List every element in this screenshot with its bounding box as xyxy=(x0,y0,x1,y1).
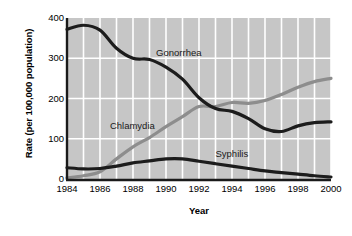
y-tick-label: 200 xyxy=(38,94,64,104)
x-tick-label: 2000 xyxy=(314,183,348,194)
x-tick-label: 1988 xyxy=(116,183,150,194)
x-tick-label: 1990 xyxy=(149,183,183,194)
series-label-gonorrhea: Gonorrhea xyxy=(156,47,201,58)
x-tick-label: 1984 xyxy=(50,183,84,194)
x-axis-title: Year xyxy=(66,205,332,216)
y-axis-title: Rate (per 100,000 population) xyxy=(23,9,34,179)
y-tick-label: 300 xyxy=(38,53,64,63)
series-label-syphilis: Syphilis xyxy=(216,148,249,159)
x-tick-label: 1994 xyxy=(215,183,249,194)
chart-container: Rate (per 100,000 population) 0100200300… xyxy=(0,0,352,236)
x-tick-label: 1998 xyxy=(281,183,315,194)
y-tick-label: 400 xyxy=(38,13,64,23)
x-tick-label: 1996 xyxy=(248,183,282,194)
y-tick-label: 100 xyxy=(38,134,64,144)
y-axis-tick-labels: 0100200300400 xyxy=(36,0,64,236)
x-tick-label: 1992 xyxy=(182,183,216,194)
x-tick-label: 1986 xyxy=(83,183,117,194)
series-label-chlamydia: Chlamydia xyxy=(110,120,155,131)
